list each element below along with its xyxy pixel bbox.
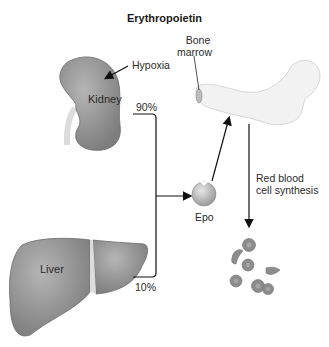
- bone-marrow-pointer: [194, 56, 199, 90]
- epo-molecule-icon: [192, 182, 216, 206]
- rbc-synthesis-label-line2: cell synthesis: [256, 184, 318, 196]
- rbc-synthesis-label-line1: Red blood: [256, 172, 304, 184]
- red-blood-cells: [230, 239, 280, 295]
- kidney-vessels: [67, 108, 75, 145]
- kidney-label: Kidney: [88, 93, 122, 105]
- epo-to-marrow-arrow: [212, 118, 229, 181]
- liver-illustration: [10, 238, 148, 336]
- liver-percent: 10%: [135, 281, 156, 293]
- hypoxia-label: Hypoxia: [132, 59, 170, 71]
- epo-label: Epo: [195, 211, 214, 223]
- bone-illustration: [196, 60, 320, 124]
- kidney-percent: 90%: [136, 101, 157, 113]
- liver-label: Liver: [40, 263, 64, 275]
- bone-marrow-label-line1: Bone: [182, 34, 214, 46]
- bone-marrow-label-line2: marrow: [177, 46, 212, 58]
